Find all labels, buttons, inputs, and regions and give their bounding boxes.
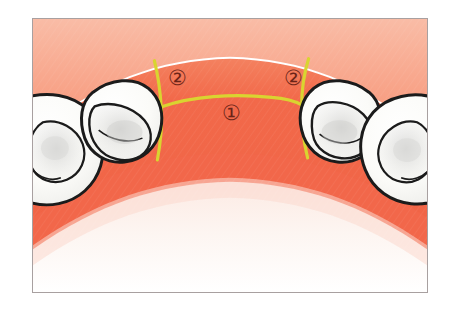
tooth-right-outer-shadow xyxy=(393,138,421,162)
tooth-left-inner xyxy=(81,81,161,163)
tooth-left-inner-shadow xyxy=(107,120,143,144)
marker-2-right: ② xyxy=(284,66,303,90)
marker-1: ① xyxy=(222,101,241,125)
marker-2-left: ② xyxy=(168,66,187,90)
illustration-frame: ② ② ① xyxy=(32,18,428,293)
tooth-right-inner-shadow xyxy=(322,120,358,144)
figure-root: ② ② ① xyxy=(0,0,451,321)
tooth-left-outer-shadow xyxy=(41,136,69,160)
gingival-flap-illustration: ② ② ① xyxy=(33,19,427,292)
